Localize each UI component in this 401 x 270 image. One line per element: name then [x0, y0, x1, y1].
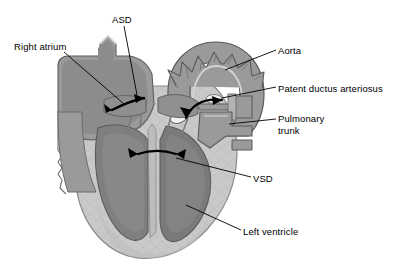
heart-diagram-figure: ASD Right atrium Aorta Patent ductus art…: [0, 0, 401, 270]
label-vsd: VSD: [253, 173, 273, 185]
label-asd: ASD: [112, 14, 132, 26]
label-pda: Patent ductus arteriosus: [278, 83, 383, 95]
label-pulmonary-trunk: Pulmonary trunk: [278, 113, 324, 136]
label-left-ventricle: Left ventricle: [243, 226, 298, 238]
label-right-atrium: Right atrium: [14, 41, 66, 53]
label-aorta: Aorta: [278, 45, 301, 57]
